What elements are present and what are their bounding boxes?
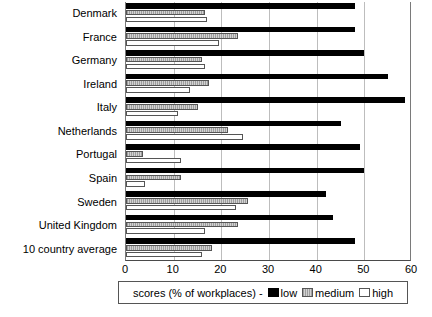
- x-axis-tick-label: 30: [262, 263, 274, 275]
- bar-low: [126, 144, 360, 150]
- legend-item-medium: medium: [302, 287, 354, 299]
- y-axis-label: Ireland: [0, 73, 121, 97]
- y-axis-label: Portugal: [0, 143, 121, 167]
- bar-medium: [126, 222, 238, 228]
- bar-chart: Denmark France Germany Ireland Italy Net…: [0, 0, 432, 317]
- y-axis-label: United Kingdom: [0, 214, 121, 238]
- bar-low: [126, 97, 405, 103]
- bar-groups: [126, 2, 410, 260]
- bar-medium: [126, 151, 143, 157]
- bar-group: [126, 2, 410, 26]
- legend-item-low: low: [268, 287, 298, 299]
- bar-group: [126, 167, 410, 191]
- bar-low: [126, 121, 341, 127]
- bar-low: [126, 3, 355, 9]
- x-axis-tick-label: 0: [122, 263, 128, 275]
- x-axis-tick-label: 60: [405, 263, 417, 275]
- bar-low: [126, 191, 326, 197]
- legend-swatch-low-icon: [268, 288, 279, 297]
- legend-swatch-high-icon: [359, 288, 370, 297]
- bar-high: [126, 40, 219, 46]
- bar-group: [126, 237, 410, 261]
- bar-low: [126, 238, 355, 244]
- legend-label-medium: medium: [315, 287, 354, 299]
- bar-high: [126, 158, 181, 164]
- y-axis-category-labels: Denmark France Germany Ireland Italy Net…: [0, 2, 121, 261]
- y-axis-label: 10 country average: [0, 237, 121, 261]
- bar-medium: [126, 198, 248, 204]
- legend-label-low: low: [281, 287, 298, 299]
- bar-medium: [126, 104, 198, 110]
- y-axis-label: France: [0, 26, 121, 50]
- legend-label-high: high: [372, 287, 393, 299]
- legend: scores (% of workplaces) - low medium hi…: [118, 281, 408, 304]
- bar-high: [126, 252, 202, 258]
- legend-item-high: high: [359, 287, 393, 299]
- bar-medium: [126, 175, 181, 181]
- legend-swatch-medium-icon: [302, 288, 313, 297]
- bar-high: [126, 205, 236, 211]
- bar-low: [126, 74, 388, 80]
- x-axis-tick-label: 40: [310, 263, 322, 275]
- bar-medium: [126, 80, 209, 86]
- bar-group: [126, 96, 410, 120]
- bar-group: [126, 214, 410, 238]
- bar-high: [126, 228, 205, 234]
- bar-medium: [126, 33, 238, 39]
- y-axis-label: Spain: [0, 167, 121, 191]
- bar-high: [126, 87, 190, 93]
- bar-low: [126, 27, 355, 33]
- bar-low: [126, 168, 364, 174]
- bar-group: [126, 143, 410, 167]
- y-axis-label: Denmark: [0, 2, 121, 26]
- bar-group: [126, 26, 410, 50]
- bar-low: [126, 215, 333, 221]
- bar-group: [126, 120, 410, 144]
- bar-group: [126, 190, 410, 214]
- x-axis-tick-label: 10: [167, 263, 179, 275]
- x-axis-tick-label: 20: [214, 263, 226, 275]
- bar-medium: [126, 245, 212, 251]
- bar-high: [126, 181, 145, 187]
- bar-high: [126, 17, 207, 23]
- y-axis-label: Sweden: [0, 190, 121, 214]
- y-axis-label: Netherlands: [0, 120, 121, 144]
- x-axis-tick-label: 50: [357, 263, 369, 275]
- bar-group: [126, 73, 410, 97]
- y-axis-label: Germany: [0, 49, 121, 73]
- plot-area: [125, 2, 411, 261]
- bar-high: [126, 134, 243, 140]
- bar-high: [126, 111, 178, 117]
- bar-medium: [126, 57, 202, 63]
- bar-medium: [126, 10, 205, 16]
- bar-high: [126, 64, 205, 70]
- y-axis-label: Italy: [0, 96, 121, 120]
- legend-title: scores (% of workplaces) -: [133, 287, 263, 299]
- bar-medium: [126, 127, 228, 133]
- bar-group: [126, 49, 410, 73]
- bar-low: [126, 50, 364, 56]
- x-axis-ticks: 0102030405060: [125, 263, 411, 277]
